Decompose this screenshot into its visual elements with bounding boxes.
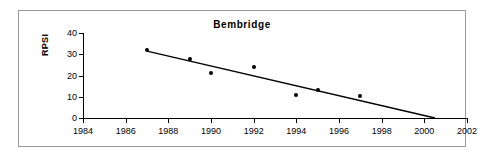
x-tick-label: 1990 [201, 126, 221, 136]
plot-area: 010203040 198419861988199019921994199619… [83, 33, 467, 118]
y-axis-title: RPSI [40, 34, 50, 56]
x-tick-label: 1994 [286, 126, 306, 136]
chart-title: Bembridge [19, 19, 465, 30]
y-tick-label: 30 [67, 49, 77, 59]
data-point [188, 57, 192, 61]
trend-line [83, 33, 467, 119]
y-tick-label: 10 [67, 92, 77, 102]
chart-frame: Bembridge RPSI 010203040 198419861988199… [18, 10, 466, 147]
y-tick-label: 40 [67, 28, 77, 38]
x-tick-mark [467, 118, 468, 123]
x-tick-label: 1988 [158, 126, 178, 136]
x-tick-label: 1998 [372, 126, 392, 136]
x-tick-label: 1986 [116, 126, 136, 136]
x-tick-label: 2002 [457, 126, 477, 136]
y-tick-label: 0 [72, 113, 77, 123]
data-point [252, 65, 256, 69]
data-point [145, 48, 149, 52]
x-tick-label: 2000 [414, 126, 434, 136]
x-tick-label: 1984 [73, 126, 93, 136]
data-point [294, 93, 298, 97]
y-tick-label: 20 [67, 71, 77, 81]
x-tick-label: 1996 [329, 126, 349, 136]
x-tick-label: 1992 [244, 126, 264, 136]
